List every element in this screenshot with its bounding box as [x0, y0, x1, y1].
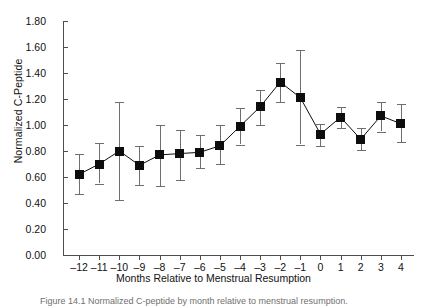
error-bar-cap-lower: [337, 128, 346, 129]
data-point-marker: [236, 122, 245, 131]
data-point-marker: [376, 111, 385, 120]
y-axis-title: Normalized C-Peptide: [12, 1, 24, 221]
data-point-marker: [95, 160, 104, 169]
x-axis-tick: [240, 256, 241, 260]
error-bar-cap-upper: [236, 108, 245, 109]
figure-caption: Figure 14.1 Normalized C-peptide by mont…: [40, 296, 390, 306]
y-axis-tick: [64, 255, 68, 256]
error-bar-cap-upper: [95, 143, 104, 144]
error-bar-cap-lower: [316, 146, 325, 147]
y-axis-tick: [64, 125, 68, 126]
data-point-marker: [336, 113, 345, 122]
error-bar-cap-lower: [377, 132, 386, 133]
y-axis-tick: [64, 151, 68, 152]
data-point-marker: [256, 102, 265, 111]
error-bar-cap-upper: [296, 50, 305, 51]
x-axis-tick: [99, 256, 100, 260]
error-bar-cap-lower: [75, 194, 84, 195]
error-bar-cap-upper: [397, 104, 406, 105]
x-axis-tick: [220, 256, 221, 260]
y-axis-tick: [64, 229, 68, 230]
error-bar-cap-lower: [176, 180, 185, 181]
error-bar-cap-upper: [316, 124, 325, 125]
y-axis-tick: [64, 21, 68, 22]
error-bar-cap-lower: [357, 150, 366, 151]
x-axis-tick: [79, 256, 80, 260]
error-bar-cap-lower: [296, 145, 305, 146]
data-point-marker: [155, 150, 164, 159]
x-axis-tick: [300, 256, 301, 260]
x-axis-tick-label: 4: [386, 262, 416, 273]
y-axis-tick-label: 1.60: [12, 42, 46, 53]
y-axis-tick-label: 1.80: [12, 16, 46, 27]
x-axis-tick: [381, 256, 382, 260]
x-axis-tick: [200, 256, 201, 260]
y-axis-tick-label: 0.00: [12, 250, 46, 261]
error-bar-cap-upper: [337, 107, 346, 108]
y-axis-tick-label: 0.60: [12, 172, 46, 183]
error-bar-cap-upper: [357, 128, 366, 129]
x-axis-tick: [119, 256, 120, 260]
x-axis-tick: [139, 256, 140, 260]
data-point-marker: [115, 147, 124, 156]
error-bar-cap-lower: [397, 142, 406, 143]
error-bar-cap-lower: [276, 102, 285, 103]
x-axis-tick: [180, 256, 181, 260]
error-bar-cap-upper: [75, 154, 84, 155]
error-bar-cap-upper: [256, 90, 265, 91]
data-point-marker: [276, 78, 285, 87]
y-axis-tick: [64, 47, 68, 48]
y-axis-tick: [64, 177, 68, 178]
x-axis-title: Months Relative to Menstrual Resumption: [0, 272, 427, 284]
error-bar-cap-lower: [216, 164, 225, 165]
error-bar-cap-upper: [156, 125, 165, 126]
error-bar-cap-upper: [216, 125, 225, 126]
data-point-marker: [195, 148, 204, 157]
x-axis-tick: [280, 256, 281, 260]
error-bar-cap-upper: [115, 102, 124, 103]
data-point-marker: [75, 170, 84, 179]
error-bar-cap-upper: [377, 102, 386, 103]
error-bar-cap-upper: [135, 146, 144, 147]
plot-area: 0.000.200.400.600.801.001.201.401.601.80…: [63, 21, 413, 255]
data-point-marker: [356, 135, 365, 144]
data-point-marker: [135, 161, 144, 170]
error-bar-cap-lower: [236, 145, 245, 146]
error-bar-cap-lower: [135, 185, 144, 186]
y-axis-tick: [64, 99, 68, 100]
error-bar-cap-upper: [176, 130, 185, 131]
x-axis-tick: [401, 256, 402, 260]
x-axis-tick: [341, 256, 342, 260]
y-axis-tick-label: 1.40: [12, 68, 46, 79]
error-bar-cap-lower: [115, 200, 124, 201]
x-axis-tick: [260, 256, 261, 260]
error-bar-cap-lower: [156, 186, 165, 187]
data-point-marker: [175, 149, 184, 158]
y-axis-tick: [64, 73, 68, 74]
y-axis-tick-label: 0.40: [12, 198, 46, 209]
x-axis-tick: [160, 256, 161, 260]
data-point-marker: [296, 93, 305, 102]
error-bar-cap-upper: [276, 63, 285, 64]
error-bar-cap-lower: [196, 168, 205, 169]
y-axis-tick-label: 1.20: [12, 94, 46, 105]
y-axis-tick-label: 1.00: [12, 120, 46, 131]
x-axis-tick: [361, 256, 362, 260]
y-axis-tick: [64, 203, 68, 204]
error-bar-cap-lower: [95, 184, 104, 185]
data-point-marker: [316, 130, 325, 139]
y-axis-tick-label: 0.80: [12, 146, 46, 157]
data-point-marker: [215, 141, 224, 150]
x-axis-tick: [320, 256, 321, 260]
error-bar-cap-upper: [196, 135, 205, 136]
y-axis-tick-label: 0.20: [12, 224, 46, 235]
data-point-marker: [396, 119, 405, 128]
error-bar-cap-lower: [256, 125, 265, 126]
